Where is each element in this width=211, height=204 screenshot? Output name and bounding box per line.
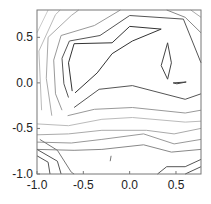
x-tick-label: -0.5 (73, 178, 94, 192)
y-tick-label: -1.0 (12, 167, 33, 181)
contour-line (37, 134, 201, 144)
contour-line (173, 82, 186, 84)
contour-line (191, 10, 201, 17)
y-tick-label: 0.0 (16, 76, 33, 90)
contour-lines (37, 10, 201, 174)
contour-plot: -1.0-0.50.00.5 -1.0-0.50.00.5 (0, 0, 211, 204)
contour-line (37, 128, 201, 134)
contour-line (69, 26, 162, 93)
plot-frame (37, 10, 201, 174)
contour-line (39, 10, 60, 110)
contour-line (158, 159, 202, 174)
contour-line (37, 118, 201, 126)
contour-line (110, 156, 111, 161)
contour-line (54, 10, 121, 110)
x-tick-label: 0.5 (168, 178, 185, 192)
contour-line (185, 167, 201, 174)
contour-line (37, 10, 48, 33)
contour-line (68, 108, 201, 116)
y-axis: -1.0-0.50.00.5 (12, 30, 40, 181)
contour-line (37, 156, 50, 174)
contour-line (161, 43, 171, 79)
contour-line (40, 139, 74, 174)
contour-line (74, 86, 201, 108)
contour-line (37, 145, 201, 152)
y-tick-label: -0.5 (12, 121, 33, 135)
y-tick-label: 0.5 (16, 30, 33, 44)
x-tick-label: 0.0 (121, 178, 138, 192)
